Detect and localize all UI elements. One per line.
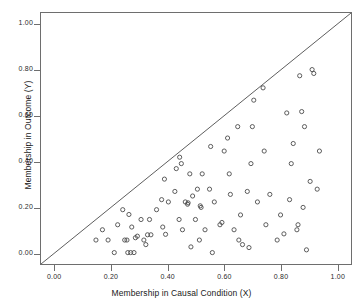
x-tick-mark bbox=[338, 265, 339, 271]
data-point bbox=[317, 149, 321, 153]
x-tick-label: 0.20 bbox=[96, 273, 126, 280]
data-point bbox=[178, 155, 182, 159]
data-point bbox=[275, 238, 279, 242]
data-point bbox=[195, 187, 199, 191]
data-point bbox=[207, 187, 211, 191]
x-tick-mark bbox=[224, 265, 225, 271]
data-point bbox=[301, 205, 305, 209]
plot-frame bbox=[40, 12, 352, 265]
data-point bbox=[189, 245, 193, 249]
y-tick-label: 0.00 bbox=[5, 249, 33, 256]
data-point bbox=[116, 223, 120, 227]
data-point bbox=[121, 208, 125, 212]
data-point bbox=[287, 198, 291, 202]
data-point bbox=[282, 232, 286, 236]
data-point bbox=[193, 217, 197, 221]
data-point bbox=[298, 74, 302, 78]
data-point bbox=[100, 228, 104, 232]
data-point bbox=[228, 192, 232, 196]
data-point bbox=[147, 217, 151, 221]
data-point bbox=[227, 172, 231, 176]
data-point bbox=[163, 232, 167, 236]
data-point bbox=[209, 144, 213, 148]
data-point bbox=[106, 238, 110, 242]
data-point bbox=[191, 194, 195, 198]
x-tick-label: 0.40 bbox=[153, 273, 183, 280]
data-point bbox=[236, 125, 240, 129]
data-point bbox=[295, 228, 299, 232]
data-point bbox=[188, 172, 192, 176]
data-point bbox=[94, 238, 98, 242]
data-point bbox=[300, 109, 304, 113]
data-point bbox=[154, 208, 158, 212]
x-tick-mark bbox=[111, 265, 112, 271]
y-tick-label: 1.00 bbox=[5, 19, 33, 26]
data-point bbox=[232, 228, 236, 232]
x-tick-label: 0.00 bbox=[39, 273, 69, 280]
data-point bbox=[237, 238, 241, 242]
data-point bbox=[142, 238, 146, 242]
data-point bbox=[197, 238, 201, 242]
data-point bbox=[225, 136, 229, 140]
x-tick-mark bbox=[281, 265, 282, 271]
scatter-plot-figure: 0.000.200.400.600.801.00 0.000.200.400.6… bbox=[0, 0, 363, 308]
data-point bbox=[245, 189, 249, 193]
data-point bbox=[203, 228, 207, 232]
data-point bbox=[261, 86, 265, 90]
data-point bbox=[177, 217, 181, 221]
data-point bbox=[289, 162, 293, 166]
x-axis-title: Membership in Causal Condition (X) bbox=[0, 288, 363, 298]
data-point bbox=[212, 200, 216, 204]
data-point bbox=[252, 98, 256, 102]
data-point bbox=[166, 200, 170, 204]
data-point bbox=[240, 243, 244, 247]
data-point bbox=[144, 243, 148, 247]
data-point bbox=[247, 245, 251, 249]
data-point bbox=[222, 149, 226, 153]
data-point bbox=[264, 223, 268, 227]
data-point bbox=[174, 167, 178, 171]
data-points-layer bbox=[41, 13, 351, 264]
data-point bbox=[315, 187, 319, 191]
data-point bbox=[130, 225, 134, 229]
x-tick-mark bbox=[54, 265, 55, 271]
x-tick-label: 0.80 bbox=[266, 273, 296, 280]
data-point bbox=[302, 125, 306, 129]
data-point bbox=[139, 217, 143, 221]
data-point bbox=[179, 162, 183, 166]
y-axis-title: Membership in Outcome (Y) bbox=[23, 45, 33, 225]
data-point bbox=[210, 251, 214, 255]
data-point bbox=[249, 162, 253, 166]
x-tick-label: 0.60 bbox=[209, 273, 239, 280]
data-point bbox=[127, 212, 131, 216]
data-point bbox=[285, 111, 289, 115]
data-point bbox=[160, 198, 164, 202]
data-point bbox=[312, 71, 316, 75]
data-point bbox=[161, 225, 165, 229]
data-point bbox=[200, 172, 204, 176]
plot-area bbox=[41, 13, 351, 264]
data-point bbox=[291, 141, 295, 145]
data-point bbox=[112, 251, 116, 255]
data-point bbox=[250, 125, 254, 129]
x-tick-label: 1.00 bbox=[323, 273, 353, 280]
data-point bbox=[238, 213, 242, 217]
data-point bbox=[296, 223, 300, 227]
data-point bbox=[268, 192, 272, 196]
x-tick-mark bbox=[168, 265, 169, 271]
data-point bbox=[255, 200, 259, 204]
data-point bbox=[162, 177, 166, 181]
data-point bbox=[262, 149, 266, 153]
data-point bbox=[180, 228, 184, 232]
data-point bbox=[308, 179, 312, 183]
data-point bbox=[278, 213, 282, 217]
data-point bbox=[304, 248, 308, 252]
data-point bbox=[173, 189, 177, 193]
